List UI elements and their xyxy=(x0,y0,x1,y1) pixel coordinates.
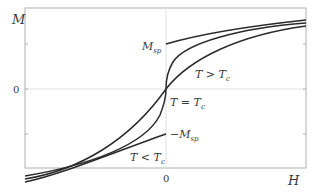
neg-m-sp-label: −Msp xyxy=(170,128,199,143)
y-axis-label: M xyxy=(11,12,26,27)
t-above-tc-label: T > Tc xyxy=(195,68,230,83)
magnetization-diagram: M 0 0 H Msp T > Tc T = Tc −Msp T < Tc xyxy=(0,0,315,193)
y-zero-label: 0 xyxy=(13,84,19,95)
t-equal-tc-label: T = Tc xyxy=(170,96,205,111)
x-zero-label: 0 xyxy=(163,173,169,184)
x-axis-label: H xyxy=(287,173,300,188)
m-sp-label: Msp xyxy=(141,40,162,55)
curve-below-tc-upper xyxy=(166,20,306,44)
t-below-tc-label: T < Tc xyxy=(130,151,165,166)
